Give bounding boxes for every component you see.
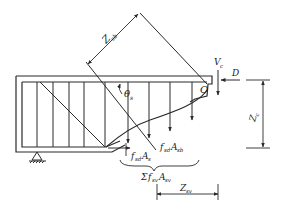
support-pin [29,152,46,163]
svg-text:sd: sd [135,156,142,162]
beam-shear-diagram: Z sb θ s f sd A s f sd A sb Σ f sv A sv [0,0,281,212]
svg-text:Σ: Σ [140,172,148,182]
z-sb-label: Z sb [99,28,119,48]
bent-bar-extension [86,62,156,150]
svg-text:c: c [254,112,261,117]
svg-text:sv: sv [152,177,159,183]
svg-text:sd: sd [164,147,171,153]
theta-arc-icon [119,84,122,94]
stirrup-force-arrows [128,82,192,143]
vc-label: V c [214,57,223,69]
svg-text:sv: sv [165,177,172,183]
compression-strut-line [140,13,207,84]
svg-text:c: c [220,63,223,69]
d-label: D [231,68,239,78]
svg-text:s: s [130,94,133,101]
theta-label: θ s [124,88,133,101]
inclined-bent-bar [40,82,105,147]
fsd-asb-label: f sd A sb [159,142,184,153]
svg-text:sb: sb [177,147,184,153]
sum-fsv-asv-label: Σ f sv A sv [140,172,172,183]
z-sv-label: Z sv [179,183,193,194]
fsd-as-label: f sd A s [130,151,151,162]
svg-text:s: s [148,156,151,162]
sum-brace [120,160,199,171]
zc-label: Z c [247,111,260,124]
point-o-label: O [200,84,208,95]
svg-text:sv: sv [186,188,193,194]
